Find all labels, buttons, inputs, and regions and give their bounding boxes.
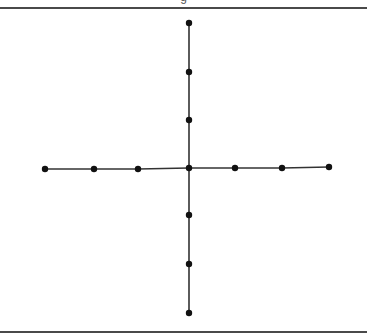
vertex-left-3: [42, 166, 48, 172]
vertex-up-3: [186, 20, 192, 26]
edge-right-3: [282, 167, 329, 168]
edge-left-1: [138, 168, 189, 169]
vertex-center: [186, 165, 192, 171]
graph-diagram: [0, 0, 367, 334]
vertex-right-3: [326, 164, 332, 170]
vertex-down-1: [186, 212, 192, 218]
vertex-left-2: [91, 166, 97, 172]
vertex-up-1: [186, 117, 192, 123]
vertex-right-1: [232, 165, 238, 171]
vertex-left-1: [135, 166, 141, 172]
vertex-right-2: [279, 165, 285, 171]
vertex-up-2: [186, 69, 192, 75]
vertex-down-2: [186, 261, 192, 267]
vertex-down-3: [186, 310, 192, 316]
